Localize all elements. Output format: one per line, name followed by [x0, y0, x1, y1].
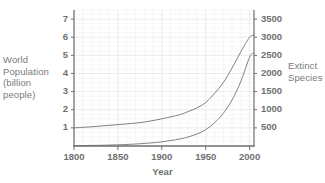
y-right-tick-3000: 3000	[261, 31, 295, 42]
y-right-tick-2500: 2500	[261, 49, 295, 60]
y-right-tick-1000: 1000	[261, 103, 295, 114]
y-right-tick-3500: 3500	[261, 13, 295, 24]
series-line-2	[74, 53, 254, 145]
series-line-1	[74, 35, 254, 127]
y-left-tick-2: 2	[42, 103, 68, 114]
y-left-tick-3: 3	[42, 85, 68, 96]
x-tick-1800: 1800	[54, 151, 94, 162]
x-tick-1900: 1900	[142, 151, 182, 162]
x-axis-title: Year	[0, 166, 325, 178]
series-layer	[74, 35, 254, 145]
y-left-tick-7: 7	[42, 13, 68, 24]
x-tick-1850: 1850	[98, 151, 138, 162]
y-left-tick-4: 4	[42, 67, 68, 78]
x-tick-1950: 1950	[186, 151, 226, 162]
y-right-tick-1500: 1500	[261, 85, 295, 96]
y-left-tick-1: 1	[42, 121, 68, 132]
y-left-tick-5: 5	[42, 49, 68, 60]
y-right-tick-2000: 2000	[261, 67, 295, 78]
y-right-tick-500: 500	[261, 121, 295, 132]
tick-marks	[71, 19, 257, 150]
x-tick-2000: 2000	[230, 151, 270, 162]
y-left-tick-6: 6	[42, 31, 68, 42]
chart-figure: World Population (billion people) Extinc…	[0, 0, 325, 183]
